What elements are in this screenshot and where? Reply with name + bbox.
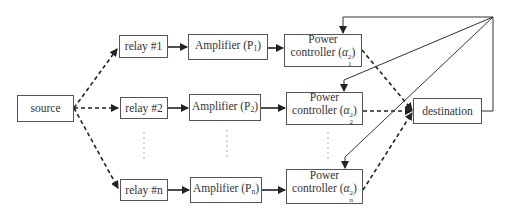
relay-n-node: relay #n <box>120 179 168 201</box>
amplifier-2-label: Amplifier (P2) <box>192 100 258 116</box>
relay-1-label: relay #1 <box>125 40 162 53</box>
power-controller-1-node: Power controller (α21) <box>284 34 362 67</box>
power-controller-2-line1: Power <box>310 91 339 104</box>
feedback-destination-apex <box>482 17 493 111</box>
amplifier-n-node: Amplifier (Pn) <box>190 177 262 203</box>
ellipsis-controllers <box>327 132 328 158</box>
destination-node: destination <box>413 98 482 124</box>
relay-n-label: relay #n <box>125 184 162 197</box>
power-controller-1-line1: Power <box>308 33 337 46</box>
power-controller-n-node: Power controller (α2n) <box>286 169 363 204</box>
amplifier-1-node: Amplifier (P1) <box>188 34 268 60</box>
link-source-relayn <box>74 108 118 188</box>
amplifier-2-node: Amplifier (P2) <box>189 94 261 121</box>
power-controller-n-line1: Power <box>310 169 339 182</box>
relay-2-label: relay #2 <box>125 102 162 115</box>
relay-1-node: relay #1 <box>119 35 168 58</box>
power-controller-n-line2: controller (α2n) <box>292 182 357 204</box>
power-controller-2-node: Power controller (α22) <box>286 92 363 125</box>
source-label: source <box>30 102 60 115</box>
power-controller-2-line2: controller (α22) <box>292 104 357 126</box>
feedback-pc1 <box>343 17 493 33</box>
feedback-pcn <box>345 17 493 168</box>
destination-label: destination <box>422 105 472 118</box>
power-controller-1-line2: controller (α21) <box>291 46 356 68</box>
ellipsis-amplifiers <box>226 130 227 156</box>
source-node: source <box>17 95 74 122</box>
ellipsis-relays <box>143 132 144 158</box>
amplifier-1-label: Amplifier (P1) <box>195 39 261 55</box>
feedback-pc2 <box>344 17 493 91</box>
link-source-relay1 <box>74 49 117 108</box>
relay-2-node: relay #2 <box>120 97 168 119</box>
link-pcn-destination <box>363 113 412 190</box>
amplifier-n-label: Amplifier (Pn) <box>193 182 259 198</box>
